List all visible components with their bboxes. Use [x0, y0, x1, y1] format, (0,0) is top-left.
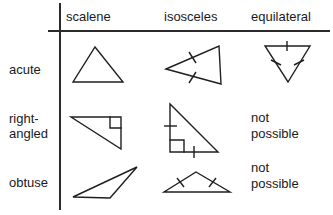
- acute-isosceles-triangle: [162, 40, 234, 90]
- not-possible-line2: possible: [251, 126, 299, 142]
- right-angled-scalene-triangle-outline: [71, 117, 121, 149]
- row-header-acute: acute: [9, 62, 55, 77]
- obtuse-isosceles-triangle-outline: [164, 172, 230, 192]
- row-header-obtuse: obtuse: [9, 175, 55, 190]
- row-header-right-angled-line1: right-: [9, 111, 39, 126]
- acute-equilateral-triangle-outline: [265, 46, 310, 82]
- acute-equilateral-triangle: [258, 40, 316, 88]
- right-angle-marker-icon: [170, 140, 184, 152]
- not-possible-obtuse-equilateral: not possible: [251, 160, 299, 192]
- right-angled-scalene-triangle: [66, 108, 130, 154]
- column-header-scalene: scalene: [66, 9, 111, 24]
- not-possible-line2: possible: [251, 176, 299, 192]
- vertical-divider-line: [59, 3, 61, 210]
- not-possible-line1: not: [251, 110, 299, 126]
- not-possible-line1: not: [251, 160, 299, 176]
- horizontal-divider-line: [48, 30, 330, 32]
- obtuse-scalene-triangle-outline: [73, 167, 137, 198]
- acute-scalene-triangle-outline: [73, 47, 123, 82]
- acute-isosceles-triangle-outline: [166, 46, 221, 84]
- right-angled-isosceles-triangle-outline: [170, 104, 218, 152]
- obtuse-isosceles-triangle: [158, 164, 238, 204]
- not-possible-right-angled-equilateral: not possible: [251, 110, 299, 142]
- column-header-equilateral: equilateral: [251, 9, 311, 24]
- triangle-classification-figure: scalene isosceles equilateral acute righ…: [0, 0, 333, 215]
- column-header-isosceles: isosceles: [164, 9, 217, 24]
- obtuse-scalene-triangle: [66, 160, 146, 206]
- right-angled-isosceles-triangle: [160, 100, 226, 160]
- row-header-right-angled: right- angled: [9, 111, 55, 141]
- row-header-right-angled-line2: angled: [9, 126, 48, 141]
- acute-isosceles-tick-1: [189, 52, 196, 63]
- acute-scalene-triangle: [66, 42, 130, 88]
- right-angle-marker-icon: [110, 117, 121, 128]
